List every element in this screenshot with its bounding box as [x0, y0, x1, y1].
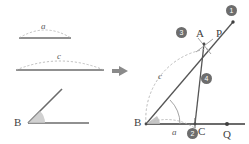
construction-tick-a-2	[198, 38, 211, 54]
figure-canvas: a c B A B C P Q c a 1 2 3 4	[0, 0, 249, 144]
point-b-dot	[145, 123, 148, 126]
step-1-badge: 1	[226, 5, 237, 16]
side-c-label: c	[158, 72, 162, 81]
ray-bp-endpoint-dot	[231, 20, 234, 23]
point-q-label: Q	[223, 129, 231, 140]
point-c-label: C	[198, 126, 205, 137]
given-segment-c-arc	[16, 61, 104, 70]
given-angle-wedge	[28, 111, 45, 123]
point-q-dot	[225, 122, 229, 126]
given-segment-a-arc	[19, 30, 71, 38]
angle-wedge-at-b	[146, 116, 160, 124]
point-p-label: P	[216, 28, 222, 39]
side-a-label: a	[172, 128, 177, 137]
transform-arrow-glyph	[112, 66, 128, 76]
point-a-dot	[203, 43, 206, 46]
step-3-badge: 3	[176, 27, 187, 38]
segment-ac	[195, 44, 204, 124]
given-segment-c-label: c	[57, 52, 61, 61]
given-segment-a-label: a	[41, 22, 46, 31]
geometry-figure	[0, 0, 249, 144]
point-c-dot	[194, 123, 197, 126]
point-a-label: A	[196, 28, 204, 39]
given-angle-vertex-label: B	[14, 117, 21, 128]
step-2-badge: 2	[187, 128, 198, 139]
point-b-label: B	[134, 117, 141, 128]
step-4-badge: 4	[201, 73, 212, 84]
